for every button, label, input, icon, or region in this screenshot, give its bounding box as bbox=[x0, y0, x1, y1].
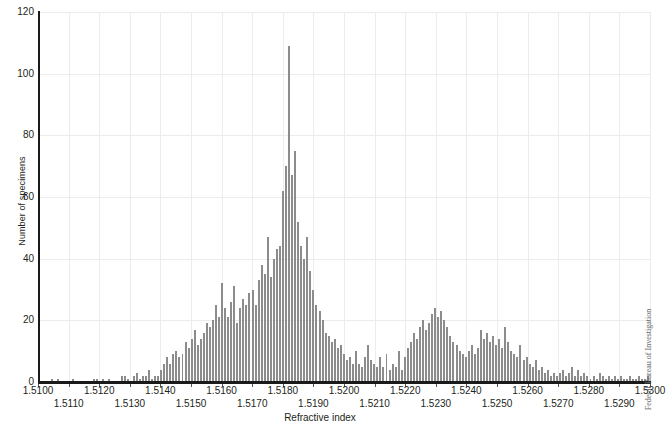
x-tick-label: 1.5170 bbox=[228, 398, 276, 409]
bar bbox=[498, 339, 500, 382]
bar bbox=[468, 351, 470, 382]
bar bbox=[346, 360, 348, 382]
bar bbox=[294, 151, 296, 382]
bar bbox=[337, 348, 339, 382]
x-tick-label: 1.5230 bbox=[412, 398, 460, 409]
bar bbox=[501, 348, 503, 382]
bar bbox=[477, 348, 479, 382]
bar bbox=[386, 354, 388, 382]
x-tick-label: 1.5100 bbox=[14, 385, 62, 396]
y-axis-ticks: 020406080100120 bbox=[0, 0, 34, 435]
bar bbox=[449, 336, 451, 382]
x-tick-label: 1.5250 bbox=[473, 398, 521, 409]
x-tick-mark bbox=[252, 384, 253, 387]
bar bbox=[209, 327, 211, 383]
bar bbox=[227, 317, 229, 382]
bar bbox=[334, 339, 336, 382]
histogram-figure: Number of specimens 020406080100120 1.51… bbox=[0, 0, 667, 435]
bar bbox=[215, 305, 217, 382]
x-tick-label: 1.5290 bbox=[595, 398, 643, 409]
bar bbox=[288, 46, 290, 382]
bar bbox=[452, 342, 454, 382]
bar bbox=[230, 302, 232, 382]
bar bbox=[434, 308, 436, 382]
bar bbox=[495, 345, 497, 382]
bar bbox=[404, 357, 406, 382]
bar bbox=[510, 351, 512, 382]
bar bbox=[367, 345, 369, 382]
x-tick-mark bbox=[558, 384, 559, 387]
bar bbox=[236, 323, 238, 382]
bar bbox=[459, 351, 461, 382]
bar bbox=[413, 333, 415, 382]
bar bbox=[319, 311, 321, 382]
x-tick-mark bbox=[375, 384, 376, 387]
bar bbox=[212, 320, 214, 382]
x-tick-mark bbox=[313, 384, 314, 387]
x-tick-mark bbox=[619, 384, 620, 387]
x-tick-label: 1.5130 bbox=[106, 398, 154, 409]
bar bbox=[422, 320, 424, 382]
x-tick-label: 1.5280 bbox=[565, 385, 613, 396]
bar bbox=[248, 293, 250, 382]
bar bbox=[370, 360, 372, 382]
bar bbox=[182, 354, 184, 382]
x-tick-label: 1.5160 bbox=[198, 385, 246, 396]
bar bbox=[529, 364, 531, 383]
x-tick-mark bbox=[191, 384, 192, 387]
bar bbox=[200, 339, 202, 382]
bar bbox=[437, 317, 439, 382]
bar bbox=[535, 360, 537, 382]
bar bbox=[315, 305, 317, 382]
x-axis-title: Refractive index bbox=[0, 412, 640, 423]
y-tick-label: 120 bbox=[6, 7, 34, 17]
bar bbox=[331, 342, 333, 382]
bar bbox=[373, 364, 375, 383]
bar bbox=[392, 364, 394, 383]
bar bbox=[197, 345, 199, 382]
bar bbox=[379, 357, 381, 382]
x-tick-label: 1.5200 bbox=[320, 385, 368, 396]
x-tick-label: 1.5260 bbox=[504, 385, 552, 396]
bar bbox=[309, 271, 311, 382]
bar bbox=[221, 283, 223, 382]
x-tick-mark bbox=[130, 384, 131, 387]
bar bbox=[203, 333, 205, 382]
bar bbox=[364, 357, 366, 382]
bar bbox=[504, 327, 506, 383]
y-tick-label: 40 bbox=[6, 254, 34, 264]
bar bbox=[282, 191, 284, 382]
bar bbox=[407, 348, 409, 382]
bar bbox=[224, 308, 226, 382]
y-tick-label: 100 bbox=[6, 69, 34, 79]
bar bbox=[416, 339, 418, 382]
x-tick-label: 1.5270 bbox=[534, 398, 582, 409]
bar bbox=[489, 342, 491, 382]
histogram-bars bbox=[38, 12, 650, 382]
bar bbox=[474, 354, 476, 382]
bar bbox=[398, 351, 400, 382]
bar bbox=[410, 342, 412, 382]
bar bbox=[267, 237, 269, 382]
bar bbox=[258, 280, 260, 382]
bar bbox=[507, 342, 509, 382]
bar bbox=[526, 357, 528, 382]
bar bbox=[456, 345, 458, 382]
bar bbox=[358, 364, 360, 383]
bar bbox=[163, 364, 165, 383]
bar bbox=[166, 357, 168, 382]
bar bbox=[428, 323, 430, 382]
x-tick-label: 1.5120 bbox=[75, 385, 123, 396]
bar bbox=[395, 367, 397, 382]
y-tick-label: 20 bbox=[6, 315, 34, 325]
x-tick-label: 1.5150 bbox=[167, 398, 215, 409]
bar bbox=[425, 330, 427, 382]
bar bbox=[297, 222, 299, 382]
bar bbox=[206, 323, 208, 382]
bar bbox=[312, 290, 314, 383]
x-tick-label: 1.5210 bbox=[351, 398, 399, 409]
bar bbox=[361, 367, 363, 382]
x-tick-mark bbox=[69, 384, 70, 387]
bar bbox=[285, 166, 287, 382]
bar bbox=[376, 367, 378, 382]
